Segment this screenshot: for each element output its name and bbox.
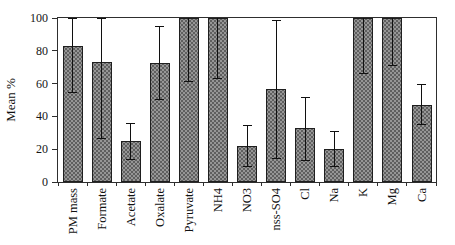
y-axis-tick	[52, 83, 57, 84]
x-axis-tick	[436, 182, 437, 186]
x-tick-label-nss-SO4: nss-SO4	[268, 188, 284, 244]
error-bar-cap-low	[126, 159, 135, 160]
x-axis-tick	[203, 182, 204, 186]
error-bar-K	[363, 18, 364, 74]
error-bar-cap-low	[417, 124, 426, 125]
error-bar-Na	[334, 131, 335, 167]
y-axis-tick	[52, 116, 57, 117]
error-bar-cap-high	[330, 131, 339, 132]
x-tick-label-NO3: NO3	[239, 188, 255, 244]
error-bar-cap-low	[184, 81, 193, 82]
x-axis-tick	[174, 182, 175, 186]
error-bar-cap-low	[388, 65, 397, 66]
error-bar-cap-low	[213, 78, 222, 79]
error-bar-Ca	[421, 84, 422, 125]
y-axis-tick	[52, 149, 57, 150]
error-bar-cap-high	[126, 123, 135, 124]
y-axis-title: Mean %	[3, 65, 19, 135]
x-axis-tick	[377, 182, 378, 186]
x-tick-label-Na: Na	[326, 188, 342, 244]
x-axis-tick	[58, 182, 59, 186]
error-bar-cap-high	[155, 26, 164, 27]
y-axis-tick	[52, 18, 57, 19]
error-bar-cap-low	[97, 138, 106, 139]
error-bar-Formate	[101, 18, 102, 139]
x-axis-tick	[116, 182, 117, 186]
error-bar-cap-low	[301, 160, 310, 161]
x-axis-tick	[319, 182, 320, 186]
x-tick-label-Pyruvate: Pyruvate	[181, 188, 197, 244]
x-axis-tick	[290, 182, 291, 186]
error-bar-Acetate	[130, 123, 131, 160]
error-bar-NH4	[217, 18, 218, 79]
x-axis-tick	[348, 182, 349, 186]
error-bar-Pyruvate	[188, 18, 189, 82]
error-bar-Oxalate	[159, 26, 160, 100]
x-tick-label-Ca: Ca	[414, 188, 430, 244]
x-tick-label-Mg: Mg	[384, 188, 400, 244]
error-bar-cap-low	[243, 166, 252, 167]
plot-area	[57, 17, 437, 183]
error-bar-NO3	[247, 125, 248, 168]
y-tick-label: 40	[16, 109, 48, 123]
error-bar-nss-SO4	[276, 20, 277, 159]
x-tick-label-K: K	[355, 188, 371, 244]
y-tick-label: 60	[16, 77, 48, 91]
x-tick-label-Oxalate: Oxalate	[152, 188, 168, 244]
y-axis-tick	[52, 182, 57, 183]
y-tick-label: 80	[16, 44, 48, 58]
x-tick-label-Formate: Formate	[94, 188, 110, 244]
error-bar-cap-high	[68, 18, 77, 19]
error-bar-cap-high	[243, 125, 252, 126]
x-axis-tick	[406, 182, 407, 186]
x-tick-label-Cl: Cl	[297, 188, 313, 244]
error-bar-cap-high	[272, 20, 281, 21]
y-tick-label: 20	[16, 142, 48, 156]
bar-chart-figure: Mean % 020406080100 PM massFormateAcetat…	[0, 0, 455, 245]
error-bar-cap-low	[68, 92, 77, 93]
error-bar-Cl	[305, 97, 306, 161]
x-axis-tick	[261, 182, 262, 186]
y-tick-label: 100	[16, 11, 48, 25]
error-bar-cap-high	[417, 84, 426, 85]
error-bar-cap-low	[155, 99, 164, 100]
error-bar-cap-high	[97, 18, 106, 19]
error-bar-cap-low	[272, 158, 281, 159]
error-bar-PM mass	[72, 18, 73, 93]
y-tick-label: 0	[16, 175, 48, 189]
error-bar-cap-low	[359, 73, 368, 74]
x-axis-tick	[145, 182, 146, 186]
x-axis-tick	[87, 182, 88, 186]
x-axis-tick	[232, 182, 233, 186]
x-tick-label-Acetate: Acetate	[123, 188, 139, 244]
error-bar-cap-low	[330, 166, 339, 167]
x-tick-label-PM mass: PM mass	[65, 188, 81, 244]
error-bar-Mg	[392, 18, 393, 66]
error-bar-cap-high	[301, 97, 310, 98]
y-axis-tick	[52, 50, 57, 51]
x-tick-label-NH4: NH4	[210, 188, 226, 244]
